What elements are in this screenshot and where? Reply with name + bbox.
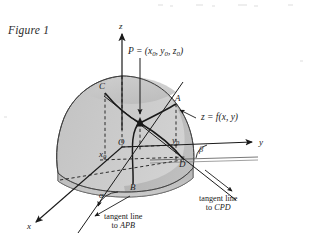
tangent-cpd-curve-name: CPD xyxy=(214,203,230,212)
axis-label-x: x xyxy=(27,222,31,232)
origin-label: O xyxy=(118,138,125,148)
y-naught-label: y0 xyxy=(172,136,179,146)
tangent-apb-curve-name: APB xyxy=(120,221,135,230)
x-naught-label: x0 xyxy=(99,150,106,160)
tangent-cpd-prefix: to xyxy=(206,203,214,212)
angle-label-alpha: α xyxy=(99,191,103,200)
point-label-b: B xyxy=(130,183,136,193)
tangent-apb-prefix: to xyxy=(112,221,120,230)
point-label-d: D xyxy=(179,160,186,170)
figure-graphic xyxy=(0,0,316,243)
tangent-apb-line-2: to APB xyxy=(104,222,142,231)
point-p-mid-1: , y xyxy=(156,46,165,56)
x-naught-subscript: 0 xyxy=(103,153,106,160)
y-naught-subscript: 0 xyxy=(176,139,179,146)
point-p-suffix: ) xyxy=(180,46,183,56)
tangent-apb-annotation: tangent line to APB xyxy=(104,213,142,231)
tangent-cpd-annotation: tangent line to CPD xyxy=(199,195,237,213)
figure-canvas: Figure 1 z y x P = (x0, y0, z0) z = f(x,… xyxy=(0,0,316,243)
point-p-coordinates: P = (x0, y0, z0) xyxy=(128,46,183,57)
surface-equation-label: z = f(x, y) xyxy=(201,112,238,122)
angle-label-beta: β xyxy=(199,145,203,154)
figure-caption: Figure 1 xyxy=(8,24,49,36)
point-label-a: A xyxy=(175,94,181,104)
point-p-prefix: P = (x xyxy=(128,46,152,56)
point-label-c: C xyxy=(99,82,105,92)
tangent-cpd-line-2: to CPD xyxy=(199,204,237,213)
axis-label-y: y xyxy=(259,138,263,148)
axis-label-z: z xyxy=(119,22,123,32)
